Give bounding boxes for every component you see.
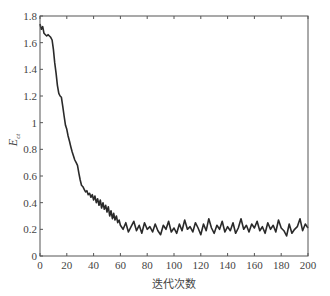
- series-line: [40, 24, 308, 236]
- x-tick-label: 40: [88, 259, 100, 271]
- x-tick-label: 80: [142, 259, 154, 271]
- y-tick-label: 0.2: [23, 223, 37, 235]
- line-chart: 00.20.40.60.811.21.41.61.8 0204060801001…: [0, 0, 330, 296]
- y-tick-label: 0.4: [23, 197, 37, 209]
- y-tick-label: 1.6: [23, 37, 37, 49]
- y-tick-label: 1.8: [23, 10, 37, 22]
- x-axis-title: 迭代次数: [152, 277, 196, 291]
- x-tick-label: 200: [300, 259, 317, 271]
- y-axis-title: Ect: [6, 133, 22, 147]
- x-tick-label: 120: [193, 259, 210, 271]
- y-tick-label: 1.2: [23, 90, 37, 102]
- x-tick-label: 180: [273, 259, 290, 271]
- y-tick-label: 1.4: [23, 63, 37, 75]
- x-tick-label: 100: [166, 259, 183, 271]
- svg-text:Ect: Ect: [6, 133, 22, 147]
- x-tick-label: 160: [246, 259, 263, 271]
- y-tick-label: 1: [32, 117, 38, 129]
- y-tick-label: 0.6: [23, 170, 37, 182]
- x-tick-label: 140: [219, 259, 236, 271]
- plot-frame: [40, 16, 308, 256]
- x-tick-label: 20: [61, 259, 73, 271]
- x-tick-label: 0: [37, 259, 43, 271]
- y-axis-title-subscript: ct: [14, 133, 22, 139]
- y-tick-label: 0.8: [23, 143, 37, 155]
- x-tick-label: 60: [115, 259, 127, 271]
